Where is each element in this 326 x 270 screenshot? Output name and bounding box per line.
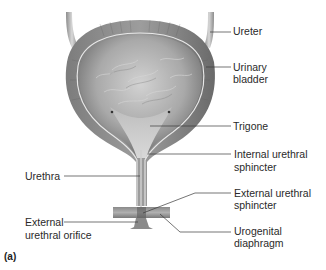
label-urethra: Urethra bbox=[25, 170, 60, 183]
label-external-sphincter-line2: sphincter bbox=[234, 199, 277, 212]
label-trigone: Trigone bbox=[233, 120, 268, 133]
label-urogenital-line1: Urogenital bbox=[234, 225, 282, 238]
label-urogenital-line2: diaphragm bbox=[234, 237, 284, 250]
label-urinary-bladder-line1: Urinary bbox=[233, 61, 267, 74]
label-ureter: Ureter bbox=[233, 25, 262, 38]
label-internal-sphincter-line2: sphincter bbox=[234, 161, 277, 174]
label-orifice-line2: urethral orifice bbox=[25, 229, 92, 242]
label-orifice-line1: External bbox=[25, 216, 64, 229]
right-ureter bbox=[204, 12, 214, 48]
panel-label: (a) bbox=[4, 251, 16, 262]
label-external-sphincter-line1: External urethral bbox=[234, 187, 311, 200]
bladder-anatomy-figure: Ureter Urinary bladder Trigone Internal … bbox=[0, 0, 326, 270]
label-internal-sphincter-line1: Internal urethral bbox=[234, 148, 308, 161]
label-urinary-bladder-line2: bladder bbox=[233, 73, 268, 86]
